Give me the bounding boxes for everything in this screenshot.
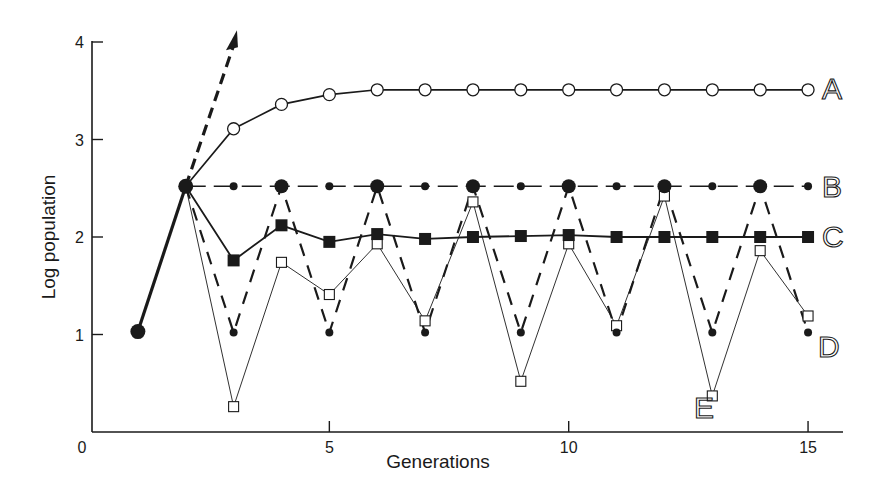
series-d-marker [517,329,525,337]
series-b-marker [466,179,480,193]
series-d-marker [613,329,621,337]
series-label-d: D [818,330,840,363]
series-b-marker [708,182,716,190]
x-axis-title: Generations [386,451,490,472]
axes: 1234 051015 Generations Log population [38,34,843,472]
series-c-marker [467,231,479,243]
series-b-marker [370,179,384,193]
series-e-marker [276,257,286,267]
arrow-head-icon [226,30,238,50]
series-b-marker [230,182,238,190]
series-a-marker [228,123,240,135]
x-tick-label: 10 [560,439,578,456]
series-c-marker [754,231,766,243]
series-b-marker [804,182,812,190]
series-a-marker [323,89,335,101]
series-c-marker [419,233,431,245]
series-a-marker [563,84,575,96]
series-c-marker [611,231,623,243]
series-e-marker [755,246,765,256]
y-tick-label: 1 [75,327,84,344]
series-c-marker [275,219,287,231]
y-tick-label: 4 [75,34,84,51]
series-e-marker [468,197,478,207]
series-b-marker [753,179,767,193]
series-d-marker [708,329,716,337]
series-a-marker [419,84,431,96]
series-a-marker [611,84,623,96]
series-e-marker [420,316,430,326]
series-c-marker [228,254,240,266]
series-a-marker [802,84,814,96]
plot-area [130,30,814,411]
x-tick-label: 0 [78,439,87,456]
series-e-marker [372,239,382,249]
series-c-marker [658,231,670,243]
series-a-marker [515,84,527,96]
series-label-b: B [822,170,842,203]
series-b-marker [325,182,333,190]
series-b-marker [517,182,525,190]
y-tick-label: 2 [75,229,84,246]
series-e-marker [803,311,813,321]
initial-growth-line [138,186,186,331]
series-a-marker [371,84,383,96]
series-e-marker [229,402,239,412]
series-e-marker [516,376,526,386]
series-a-marker [467,84,479,96]
series-e-marker [324,290,334,300]
series-d-marker [804,329,812,337]
growth-arrow-line [186,44,234,186]
series-a-marker [706,84,718,96]
series-a-marker [658,84,670,96]
series-d-marker [325,329,333,337]
population-chart: 1234 051015 Generations Log population A… [0,0,887,490]
x-tick-label: 15 [799,439,817,456]
series-c-marker [515,230,527,242]
series-c-marker [706,231,718,243]
y-axis-title: Log population [38,175,59,300]
series-b-marker [657,179,671,193]
y-ticks: 1234 [75,34,103,344]
y-tick-label: 3 [75,132,84,149]
series-c-marker [323,236,335,248]
series-b-marker [562,179,576,193]
series-c-marker [371,228,383,240]
initial-point-marker [130,324,145,339]
branch-point-marker [178,179,193,194]
series-label-a: A [822,72,842,105]
series-b-marker [274,179,288,193]
series-a-marker [754,84,766,96]
series-labels: A B C D E [694,72,844,424]
series-label-e: E [694,391,714,424]
series-d-marker [230,329,238,337]
x-tick-label: 5 [325,439,334,456]
series-label-c: C [822,220,844,253]
series-b-marker [613,182,621,190]
series-c-marker [563,229,575,241]
series-a-marker [275,98,287,110]
series-c-marker [802,231,814,243]
series-b-marker [421,182,429,190]
series-d-marker [421,329,429,337]
